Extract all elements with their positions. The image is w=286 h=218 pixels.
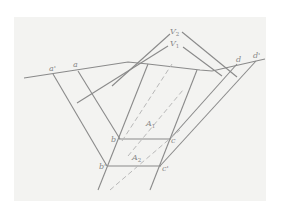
c-edge-line — [150, 70, 197, 190]
label-b: b — [111, 135, 116, 144]
label-a2: A2 — [131, 153, 141, 163]
dashed-line-1 — [122, 64, 172, 141]
label-c: c — [171, 136, 176, 145]
c-prime-to-d-prime-line — [160, 61, 256, 166]
label-v1: V1 — [170, 39, 179, 49]
main-section-line — [24, 59, 265, 78]
v1-right-line — [183, 47, 222, 76]
label-d-prime: d' — [253, 51, 260, 60]
label-d: d — [236, 55, 241, 64]
geometry-diagram: a' a d d' b c b' c' V2 V1 A1 A2 — [0, 0, 286, 218]
a-to-b-line — [78, 71, 120, 139]
label-a1: A1 — [145, 119, 155, 129]
label-c-prime: c' — [162, 164, 169, 173]
label-a: a — [73, 60, 78, 69]
label-a-prime: a' — [49, 64, 56, 73]
v2-left-line — [112, 34, 170, 86]
b-edge-line — [98, 64, 148, 190]
label-v2: V2 — [170, 27, 179, 37]
dashed-line-2 — [128, 90, 183, 156]
label-b-prime: b' — [99, 162, 106, 171]
v1-left-line — [77, 46, 168, 103]
a-prime-to-b-prime-line — [53, 74, 107, 166]
c-to-d-line — [170, 64, 237, 139]
